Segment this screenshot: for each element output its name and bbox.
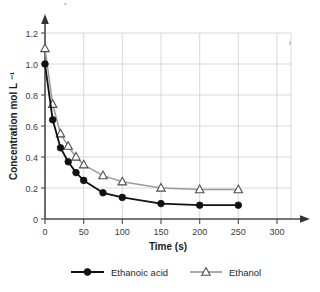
ethanol-point-0 [41,44,49,52]
x-axis-tick-labels: 0 50 100 150 200 250 300 [42,227,284,237]
legend-label-ethanoic-acid: Ethanoic acid [111,267,168,278]
acid-point-30 [65,159,72,166]
ethanol-markers [41,44,243,193]
chart-plot-area: 1.2 1.0 0.8 0.6 0.4 0.2 0 0 50 100 150 2… [0,0,320,292]
acid-point-100 [119,194,126,201]
ytick-label-0: 0 [33,215,38,225]
y-axis-arrowhead [41,14,49,24]
series-ethanol [41,44,243,193]
acid-point-20 [57,145,64,152]
y-axis-tick-labels: 1.2 1.0 0.8 0.6 0.4 0.2 0 [25,29,38,225]
acid-point-0 [42,61,49,68]
chart-legend: Ethanoic acid Ethanol [71,267,261,278]
ytick-label-0.8: 0.8 [25,91,38,101]
legend-item-ethanoic-acid[interactable]: Ethanoic acid [71,267,168,278]
concentration-vs-time-chart: 1.2 1.0 0.8 0.6 0.4 0.2 0 0 50 100 150 2… [0,0,320,292]
ethanoic-acid-markers [42,61,242,209]
xtick-label-0: 0 [42,227,47,237]
ytick-label-1.2: 1.2 [25,29,38,39]
acid-point-200 [196,202,203,209]
xtick-label-300: 300 [269,227,284,237]
acid-point-75 [100,190,107,197]
ethanoic-acid-line [45,64,238,205]
x-axis-title: Time (s) [149,241,187,252]
ytick-label-0.6: 0.6 [25,122,38,132]
ytick-label-0.2: 0.2 [25,184,38,194]
xtick-label-100: 100 [115,227,130,237]
xtick-label-50: 50 [79,227,89,237]
acid-point-40 [73,169,80,176]
legend-label-ethanol: Ethanol [229,267,261,278]
acid-point-50 [80,177,87,184]
ytick-label-0.4: 0.4 [25,153,38,163]
legend-item-ethanol[interactable]: Ethanol [190,267,261,278]
series-ethanoic-acid [42,61,242,209]
ytick-label-1.0: 1.0 [25,60,38,70]
acid-point-250 [235,202,242,209]
xtick-label-200: 200 [192,227,207,237]
x-axis-arrowhead [300,215,310,223]
xtick-label-150: 150 [153,227,168,237]
xtick-label-250: 250 [231,227,246,237]
ethanol-point-75 [99,171,107,179]
acid-point-150 [158,200,165,207]
axis-lines [41,14,310,223]
y-axis-title: Concentration mol L ⁻¹ [8,71,19,180]
acid-point-10 [49,117,56,124]
legend-marker-filled-circle-icon [84,269,91,276]
